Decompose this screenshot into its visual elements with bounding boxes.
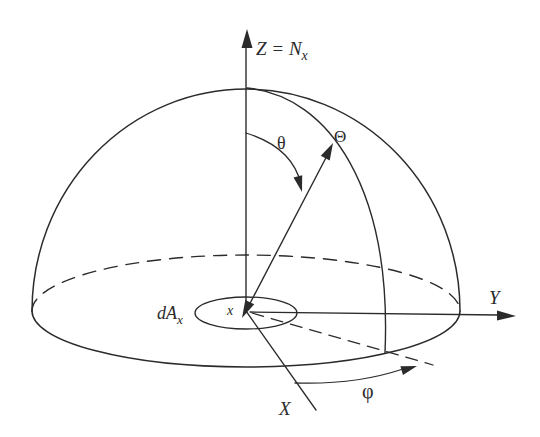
z-axis-label: Z = Nx bbox=[256, 38, 309, 63]
z-axis-label-main: Z = N bbox=[256, 38, 303, 59]
direction-vector-line bbox=[246, 150, 330, 311]
azimuth-angle-label: φ bbox=[362, 380, 374, 403]
hemisphere-geometry-diagram: Z = Nx Y X θ Θ φ dAx x bbox=[0, 0, 540, 437]
area-element-label-main: dA bbox=[157, 303, 178, 323]
z-axis-label-subscript: x bbox=[301, 48, 309, 63]
y-axis-label: Y bbox=[489, 287, 502, 308]
azimuth-angle-arc bbox=[295, 369, 403, 383]
y-axis-line bbox=[250, 312, 499, 315]
diagram-linework bbox=[32, 46, 499, 410]
x-axis-line bbox=[246, 311, 316, 410]
area-element-label-subscript: x bbox=[176, 312, 183, 327]
zenith-angle-arc bbox=[246, 133, 301, 184]
direction-label: Θ bbox=[334, 127, 346, 146]
area-element-label: dAx bbox=[157, 303, 183, 327]
equator-front-arc bbox=[32, 311, 460, 367]
zenith-arc-arrowhead-icon bbox=[294, 175, 303, 192]
diagram-arrowheads bbox=[242, 29, 517, 375]
direction-vector-arrowhead-icon bbox=[321, 143, 333, 160]
surface-point-label: x bbox=[226, 303, 234, 318]
x-axis-label: X bbox=[278, 398, 292, 419]
origin-point-arrowhead-icon bbox=[242, 300, 254, 318]
zenith-angle-label: θ bbox=[277, 133, 286, 153]
figure-canvas: Z = Nx Y X θ Θ φ dAx x bbox=[0, 0, 540, 437]
y-axis-arrowhead-icon bbox=[497, 311, 516, 321]
z-axis-arrowhead-icon bbox=[242, 29, 253, 48]
azimuth-arc-arrowhead-icon bbox=[400, 366, 417, 375]
